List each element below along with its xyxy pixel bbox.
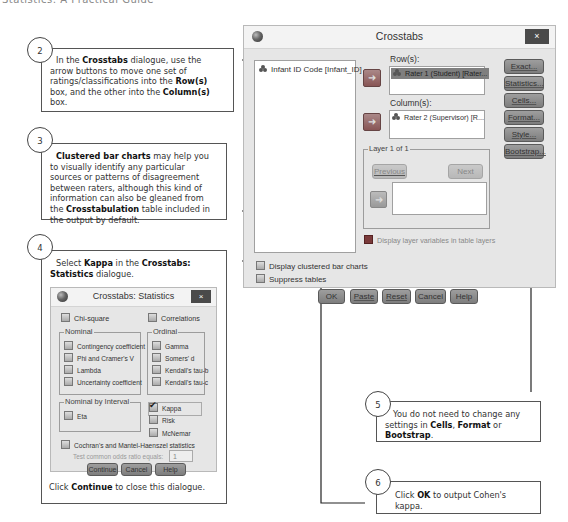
nominal-variable-icon [259,65,268,73]
checkbox-icon [256,261,265,270]
test-odds-ratio-input[interactable]: 1 [169,450,193,462]
layer-group: Layer 1 of 1 Previous Next ➜ [363,149,490,229]
checkbox-checked-icon [149,403,158,412]
callout-2-text: In the Crosstabs dialogue, use the arrow… [50,55,210,107]
uncertainty-coefficient-checkbox[interactable]: Uncertainty coefficient [64,377,142,389]
callout-4-footer: Click Continue to close this dialogue. [49,482,205,493]
checkbox-icon [256,274,265,283]
format-button[interactable]: Format... [504,110,544,125]
layer-label: Layer 1 of 1 [368,144,410,153]
test-odds-ratio-label: Test common odds ratio equals: [73,452,163,463]
style-button[interactable]: Style... [504,127,544,142]
checkbox-icon [64,353,73,362]
lambda-checkbox[interactable]: Lambda [64,365,101,377]
correlations-checkbox[interactable]: Correlations [148,313,200,325]
checkbox-icon [149,428,158,437]
checkbox-icon [64,411,73,420]
step-number-2: 2 [27,37,53,63]
callout-6: Click OK to output Cohen's kappa. [376,481,541,514]
help-button[interactable]: Help [450,289,478,304]
nominal-by-interval-label: Nominal by Interval [64,397,130,408]
callout-2: In the Crosstabs dialogue, use the arrow… [41,48,234,112]
kendalls-tau-c-checkbox[interactable]: Kendall's tau-c [152,377,208,389]
callout-5-text: You do not need to change any settings i… [385,409,520,440]
move-to-columns-button[interactable]: ➜ [363,113,381,131]
rows-list[interactable]: Rater 1 (Student) [Rater... [389,66,485,95]
exact-button[interactable]: Exact... [504,59,544,74]
step-number-4: 4 [27,234,53,260]
risk-checkbox[interactable]: Risk [149,415,175,427]
somers-d-checkbox[interactable]: Somers' d [152,353,194,365]
next-button[interactable]: Next [448,164,483,179]
checkbox-icon [152,353,161,362]
reset-button[interactable]: Reset [382,289,411,304]
kappa-checkbox[interactable]: Kappa [148,402,202,416]
column-variable-rater2[interactable]: Rater 2 (Supervisor) [R... [392,113,484,122]
checkbox-icon [152,341,161,350]
move-to-rows-button[interactable]: ➜ [363,69,381,87]
phi-cramers-v-checkbox[interactable]: Phi and Cramer's V [64,353,134,365]
callout-3: Clustered bar charts may help you to vis… [41,143,227,220]
checkbox-icon [64,365,73,374]
crosstabs-titlebar: Crosstabs × [244,26,555,49]
callout-5: You do not need to change any settings i… [376,401,541,442]
checkbox-icon [152,365,161,374]
nominal-group: Nominal Contingency coefficient Phi and … [59,332,141,395]
page-header: Statistics: A Practical Guide [2,0,154,5]
checkbox-icon [61,440,70,449]
nominal-label: Nominal [64,327,94,338]
contingency-coefficient-checkbox[interactable]: Contingency coefficient [64,341,145,353]
close-icon[interactable]: × [525,29,549,44]
chi-square-checkbox[interactable]: Chi-square [61,313,109,325]
eta-checkbox[interactable]: Eta [64,411,87,423]
mcnemar-checkbox[interactable]: McNemar [149,428,191,440]
checkbox-icon [61,313,70,322]
statistics-button[interactable]: Statistics... [504,76,544,91]
checkbox-icon [364,235,373,244]
variable-infant-id[interactable]: Infant ID Code [Infant_ID] [259,65,362,74]
callout-4-text: Select Kappa in the Crosstabs: Statistic… [50,258,191,279]
paste-button[interactable]: Paste [350,289,378,304]
source-variable-list[interactable]: Infant ID Code [Infant_ID] [254,60,356,253]
rows-label: Row(s): [390,54,419,64]
nominal-variable-icon [392,113,401,121]
cells-button[interactable]: Cells... [504,93,544,108]
close-icon[interactable]: × [191,290,211,303]
help-button[interactable]: Help [155,463,186,476]
step-number-5: 5 [365,391,391,417]
nominal-variable-icon [393,69,402,77]
checkbox-icon [148,313,157,322]
ordinal-group: Ordinal Gamma Somers' d Kendall's tau-b … [147,332,205,395]
bootstrap-button[interactable]: Bootstrap... [504,144,544,159]
columns-list[interactable]: Rater 2 (Supervisor) [R... [389,110,485,139]
cancel-button[interactable]: Cancel [121,463,152,476]
continue-button[interactable]: Continue [87,463,118,476]
ordinal-label: Ordinal [152,327,178,338]
display-layer-variables-checkbox[interactable]: Display layer variables in table layers [364,235,495,245]
step-number-3: 3 [27,127,53,153]
move-to-layer-button[interactable]: ➜ [370,191,387,208]
crosstabs-statistics-dialog: Crosstabs: Statistics × Chi-square Corre… [50,287,217,472]
cancel-button[interactable]: Cancel [415,289,446,304]
statistics-titlebar: Crosstabs: Statistics × [51,288,216,307]
checkbox-icon [149,415,158,424]
columns-label: Column(s): [390,98,432,108]
nominal-by-interval-group: Nominal by Interval Eta [59,402,141,432]
callout-3-text: Clustered bar charts may help you to vis… [50,151,210,225]
checkbox-icon [152,377,161,386]
layer-list[interactable] [392,182,487,215]
callout-6-text: Click OK to output Cohen's kappa. [395,490,506,511]
gamma-checkbox[interactable]: Gamma [152,341,188,353]
row-variable-rater1[interactable]: Rater 1 (Student) [Rater... [391,68,489,79]
checkbox-icon [64,377,73,386]
suppress-tables-checkbox[interactable]: Suppress tables [256,274,326,284]
callout-4: Select Kappa in the Crosstabs: Statistic… [41,250,227,504]
kendalls-tau-b-checkbox[interactable]: Kendall's tau-b [152,365,208,377]
crosstabs-title: Crosstabs [244,30,555,42]
previous-button[interactable]: Previous [372,164,407,179]
checkbox-icon [64,341,73,350]
display-clustered-bar-charts-checkbox[interactable]: Display clustered bar charts [256,261,368,271]
ok-button[interactable]: OK [318,289,345,304]
step-number-6: 6 [365,469,391,495]
crosstabs-dialog: Crosstabs × Infant ID Code [Infant_ID] ➜… [243,25,556,288]
